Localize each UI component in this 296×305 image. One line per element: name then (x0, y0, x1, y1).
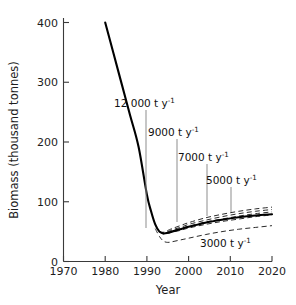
y-tick-label-200: 200 (37, 136, 58, 149)
x-tick-label-2010: 2010 (216, 265, 244, 278)
annotation-5000-value: 5000 (206, 174, 233, 186)
x-tick-label-2020: 2020 (258, 265, 286, 278)
axes-group (64, 18, 273, 262)
annotation-12000-unit: t y (154, 97, 168, 109)
y-tick-label-300: 300 (37, 76, 58, 89)
x-tick-label-2000: 2000 (175, 265, 203, 278)
annotation-12000-value: 12 000 (114, 97, 151, 109)
annotation-3000-value: 3000 (200, 237, 227, 249)
y-tick-group: 400 300 200 100 0 (37, 17, 69, 269)
annotation-9000-unit: t y (178, 126, 192, 138)
y-tick-label-100: 100 (37, 196, 58, 209)
annotation-7000: 7000 t y-1 (178, 150, 229, 163)
x-tick-label-1990: 1990 (133, 265, 161, 278)
annotation-3000: 3000 t y-1 (200, 236, 251, 249)
annotation-labels: 12 000 t y-1 9000 t y-1 7000 t y-1 5000 … (114, 96, 257, 249)
chart-canvas: 400 300 200 100 0 1970 1980 1990 2000 20… (0, 0, 296, 305)
annotation-5000-exponent: -1 (250, 173, 257, 182)
y-axis-title: Biomass (thousand tonnes) (7, 61, 21, 219)
annotation-5000: 5000 t y-1 (206, 173, 257, 186)
x-axis-title: Year (155, 283, 181, 297)
annotation-9000: 9000 t y-1 (148, 125, 199, 138)
annotation-7000-unit: t y (208, 151, 222, 163)
x-tick-group: 1970 1980 1990 2000 2010 2020 (50, 256, 287, 278)
annotation-3000-unit: t y (230, 237, 244, 249)
annotation-9000-value: 9000 (148, 126, 175, 138)
annotation-7000-exponent: -1 (222, 150, 229, 159)
annotation-12000-exponent: -1 (168, 96, 175, 105)
x-tick-label-1970: 1970 (50, 265, 78, 278)
annotation-7000-value: 7000 (178, 151, 205, 163)
annotation-12000: 12 000 t y-1 (114, 96, 175, 109)
y-tick-label-400: 400 (37, 17, 58, 30)
biomass-projection-figure: 400 300 200 100 0 1970 1980 1990 2000 20… (0, 0, 296, 305)
annotation-9000-exponent: -1 (192, 125, 199, 134)
annotation-5000-unit: t y (236, 174, 250, 186)
annotation-3000-exponent: -1 (244, 236, 251, 245)
x-tick-label-1980: 1980 (91, 265, 119, 278)
